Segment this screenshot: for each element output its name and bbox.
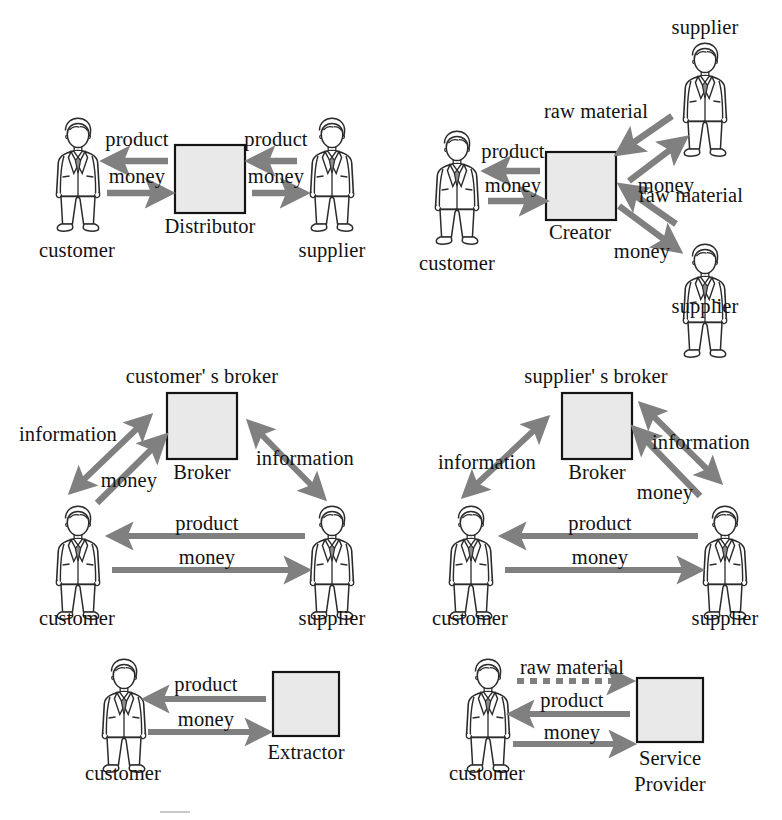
label-product: product	[174, 674, 237, 695]
label-product: product	[175, 513, 238, 534]
label-information-left: information	[438, 452, 536, 473]
label-product-right: product	[244, 129, 307, 150]
person-supplier	[703, 506, 747, 619]
label-customer: customer	[432, 608, 508, 629]
person-customer	[56, 506, 100, 619]
box-service-provider	[637, 678, 703, 742]
label-supplier: supplier	[299, 608, 366, 629]
person-customer	[435, 131, 479, 244]
label-raw-material-bottom: raw material	[639, 185, 743, 206]
person-supplier	[310, 118, 354, 231]
person-customer	[56, 118, 100, 231]
label-product: product	[568, 513, 631, 534]
label-customer: customer	[449, 763, 525, 784]
box-distributor	[175, 145, 245, 213]
figure-canvas: product money product money customer Dis…	[0, 0, 782, 820]
label-money: money	[572, 547, 628, 568]
label-distributor: Distributor	[164, 216, 255, 237]
label-raw-material-top: raw material	[544, 101, 648, 122]
label-service-provider-line2: Provider	[634, 774, 705, 795]
label-extractor: Extractor	[267, 742, 344, 763]
person-customer	[449, 506, 493, 619]
diagram-svg	[0, 0, 782, 820]
label-money: money	[178, 709, 234, 730]
person-customer	[466, 659, 510, 772]
label-raw-material: raw material	[520, 657, 624, 678]
box-extractor	[273, 672, 339, 736]
label-money-left: money	[485, 175, 541, 196]
label-customer: customer	[85, 763, 161, 784]
label-customer: customer	[419, 253, 495, 274]
label-product-left: product	[105, 129, 168, 150]
label-information-right: information	[256, 448, 354, 469]
label-money-left: money	[109, 166, 165, 187]
heading-suppliers-broker: supplier' s broker	[524, 366, 667, 387]
box-broker	[167, 393, 237, 459]
label-information-left: information	[19, 424, 117, 445]
label-information-right: information	[652, 432, 750, 453]
label-money-left: money	[101, 470, 157, 491]
label-supplier: supplier	[692, 608, 759, 629]
person-supplier	[310, 506, 354, 619]
label-service-provider-line1: Service	[639, 748, 701, 769]
label-broker: Broker	[568, 462, 626, 483]
label-supplier-bottom: supplier	[672, 296, 739, 317]
label-product: product	[540, 690, 603, 711]
label-supplier-top: supplier	[672, 17, 739, 38]
label-money: money	[544, 722, 600, 743]
label-customer: customer	[39, 608, 115, 629]
box-creator	[546, 152, 616, 220]
label-supplier: supplier	[299, 240, 366, 261]
label-money-right: money	[637, 482, 693, 503]
heading-customers-broker: customer' s broker	[126, 366, 278, 387]
person-supplier-top	[683, 43, 727, 156]
label-money-right: money	[248, 166, 304, 187]
person-customer	[102, 659, 146, 772]
label-customer: customer	[39, 240, 115, 261]
label-product: product	[481, 141, 544, 162]
box-broker	[562, 393, 632, 459]
panel-suppliers-broker	[449, 393, 747, 619]
label-broker: Broker	[173, 462, 231, 483]
label-creator: Creator	[549, 222, 611, 243]
label-money-bottom: money	[614, 241, 670, 262]
label-money: money	[179, 547, 235, 568]
